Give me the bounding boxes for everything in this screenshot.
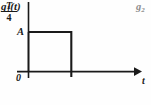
x-axis-label: t (142, 76, 145, 86)
signal-plot-figure: g1(t) A 0 t g2 T 4 (0, 0, 151, 105)
y-axis-label: g1(t) (1, 1, 21, 12)
y-axis-label-base: g (1, 0, 7, 12)
x-axis-arrowhead (134, 67, 142, 76)
y-axis-label-argument: (t) (10, 0, 20, 12)
plot-canvas (0, 0, 151, 105)
neighbour-figure-label-subscript: 2 (141, 6, 145, 14)
origin-label: 0 (16, 73, 21, 83)
neighbour-figure-label: g2 (136, 2, 145, 13)
amplitude-label: A (17, 27, 24, 38)
y-axis-label-subscript: 1 (7, 5, 11, 14)
